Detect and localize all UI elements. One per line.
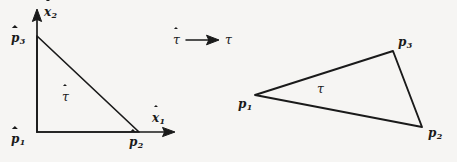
vertex-label-p3: p3 — [398, 36, 412, 49]
axis-label-x2-base: x — [44, 5, 51, 19]
vertex-label-p1-sub: 1 — [247, 102, 253, 112]
vertex-label-p3-hat: p3 — [11, 32, 25, 45]
mapping-target-label-tau: τ — [225, 34, 232, 47]
vertex-label-p2-base: p — [428, 126, 436, 140]
axis-x2-arrowhead — [32, 9, 41, 22]
axis-label-x1-base: x — [152, 111, 159, 125]
mapping-source-label-glyph: τ — [173, 32, 180, 47]
physical-triangle-outline — [255, 51, 422, 127]
axis-label-x1: x1 — [152, 112, 165, 125]
vertex-label-p3-sub: 3 — [407, 40, 413, 50]
vertex-label-p1: p1 — [238, 98, 252, 111]
vertex-label-p2-hat-sub: 2 — [138, 140, 144, 150]
figure-canvas — [0, 0, 457, 162]
mapping-arrow-head — [207, 35, 220, 45]
axis-label-x2-sub: 2 — [52, 10, 58, 20]
axis-label-x1-sub: 1 — [160, 116, 166, 126]
region-label-tau-hat: τ — [62, 91, 69, 104]
vertex-label-p1-base: p — [238, 97, 246, 111]
mapping-source-label-tau-hat: τ — [173, 34, 180, 47]
region-label-tau: τ — [317, 83, 324, 96]
vertex-label-p2-hat: p2 — [129, 136, 143, 149]
vertex-label-p1-hat-base: p — [11, 132, 19, 146]
reference-triangle-outline — [37, 36, 139, 132]
physical-triangle-path — [255, 51, 422, 127]
region-label-tau-hat-glyph: τ — [62, 89, 69, 104]
vertex-label-p1-hat: p1 — [11, 133, 25, 146]
region-label-tau-glyph: τ — [317, 81, 324, 96]
vertex-label-p2-sub: 2 — [437, 131, 443, 141]
vertex-label-p3-base: p — [398, 35, 406, 49]
vertex-label-p1-hat-sub: 1 — [20, 137, 26, 147]
vertex-label-p3-hat-sub: 3 — [20, 36, 26, 46]
mapping-arrow-graphic — [186, 35, 219, 45]
axis-label-x2: x2 — [44, 6, 57, 19]
axis-x1-arrowhead — [163, 127, 176, 136]
mapping-target-label-glyph: τ — [225, 32, 232, 47]
triangle-mapping-figure: x2 x1 p3 p1 p2 τ τ τ p1 p3 p2 τ — [0, 0, 457, 162]
vertex-label-p2-hat-base: p — [129, 135, 137, 149]
vertex-label-p2: p2 — [428, 127, 442, 140]
vertex-label-p3-hat-base: p — [11, 31, 19, 45]
reference-triangle-path — [37, 36, 139, 132]
